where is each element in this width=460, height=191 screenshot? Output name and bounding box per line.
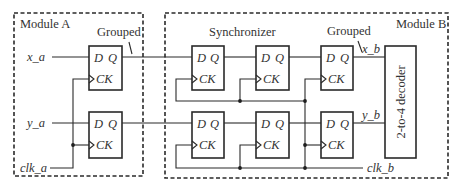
d-pin-label: D (325, 51, 335, 65)
flip-flop-b-y: D Q CK (321, 112, 353, 158)
decoder-block: 2-to-4 decoder (385, 46, 416, 158)
flip-flop-sync2-x: D Q CK (256, 46, 289, 90)
d-pin-label: D (196, 51, 206, 65)
junction-dot (238, 99, 242, 103)
signal-x-a: x_a (26, 50, 45, 64)
d-pin-label: D (325, 117, 335, 131)
d-pin-label: D (196, 117, 206, 131)
q-pin-label: Q (340, 117, 349, 131)
flip-flop-a-y: D Q CK (89, 112, 122, 158)
synchronizer-annotation: Synchronizer (209, 25, 276, 39)
ck-pin-label: CK (263, 138, 280, 152)
q-pin-label: Q (340, 51, 349, 65)
junction-dot (303, 99, 307, 103)
flip-flop-sync1-y: D Q CK (192, 112, 224, 158)
module-b-title: Module B (396, 17, 446, 31)
ck-pin-label: CK (199, 72, 216, 86)
grouped-annotation-a: Grouped (97, 25, 141, 39)
junction-dot (303, 166, 307, 170)
flip-flop-a-x: D Q CK (89, 46, 122, 90)
ck-pin-label: CK (328, 72, 345, 86)
ck-pin-label: CK (328, 138, 345, 152)
flip-flop-sync1-x: D Q CK (192, 46, 224, 90)
decoder-label: 2-to-4 decoder (394, 65, 408, 139)
signal-clk-a: clk_a (20, 161, 47, 175)
d-pin-label: D (260, 51, 270, 65)
ck-pin-label: CK (96, 72, 113, 86)
junction-dot (71, 143, 75, 147)
q-pin-label: Q (275, 51, 284, 65)
signal-clk-b: clk_b (367, 161, 394, 175)
q-pin-label: Q (210, 51, 219, 65)
flip-flop-sync2-y: D Q CK (256, 112, 289, 158)
d-pin-label: D (93, 51, 103, 65)
wire-clk-b-upper-ff2 (240, 79, 256, 101)
grouped-annotation-b: Grouped (327, 24, 371, 38)
ck-pin-label: CK (263, 72, 280, 86)
wire-clk-b-lower-ff2 (240, 145, 256, 168)
q-pin-label: Q (108, 51, 117, 65)
ck-pin-label: CK (96, 138, 113, 152)
q-pin-label: Q (108, 117, 117, 131)
signal-y-b: y_b (360, 108, 380, 122)
circuit-diagram: Module A Module B Grouped Synchronizer G… (0, 0, 460, 191)
d-pin-label: D (93, 117, 103, 131)
ck-pin-label: CK (199, 138, 216, 152)
module-a-title: Module A (20, 17, 70, 31)
junction-dot (238, 166, 242, 170)
signal-x-b: x_b (361, 42, 380, 56)
q-pin-label: Q (275, 117, 284, 131)
signal-y-a: y_a (25, 116, 45, 130)
d-pin-label: D (260, 117, 270, 131)
grouped-pointer-a (129, 42, 132, 54)
junction-dot (303, 143, 307, 147)
q-pin-label: Q (210, 117, 219, 131)
flip-flop-b-x: D Q CK (321, 46, 353, 90)
